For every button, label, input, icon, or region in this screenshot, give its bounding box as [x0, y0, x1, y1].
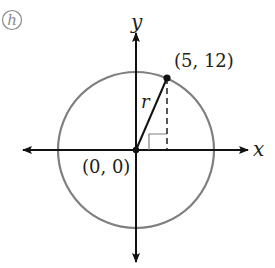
origin-point — [133, 147, 139, 153]
right-angle-marker — [149, 134, 167, 150]
x-axis-label: x — [253, 137, 264, 161]
origin-label: (0, 0) — [82, 156, 130, 177]
radius-label: r — [141, 91, 151, 112]
circle-diagram: h y x (5, 12) (0, 0) r — [0, 0, 275, 268]
point-on-circle — [163, 74, 170, 81]
point-label: (5, 12) — [174, 50, 234, 71]
y-axis-label: y — [130, 10, 143, 34]
radius-segment — [136, 78, 167, 150]
panel-label-text: h — [7, 11, 17, 29]
panel-label: h — [3, 11, 22, 30]
